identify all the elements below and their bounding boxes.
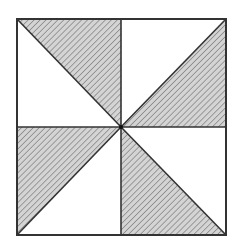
pinwheel-diagram [0,0,242,252]
center-point [119,125,123,129]
